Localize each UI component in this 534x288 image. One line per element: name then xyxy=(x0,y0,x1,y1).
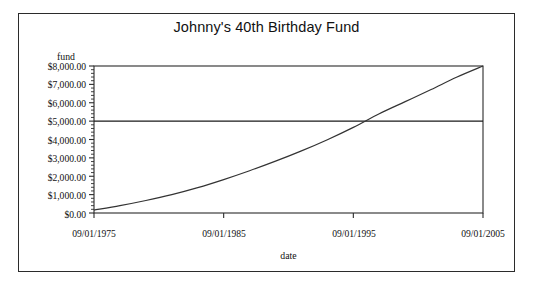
plot-area-border xyxy=(94,66,483,213)
plot-canvas xyxy=(0,0,534,288)
chart-figure: Johnny's 40th Birthday Fund fund date $8… xyxy=(0,0,534,288)
x-tick-marks xyxy=(94,213,483,218)
